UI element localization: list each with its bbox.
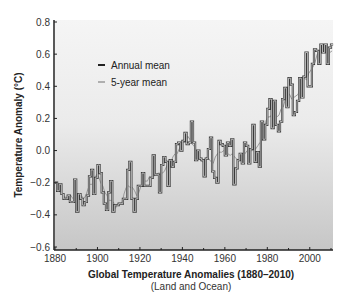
y-tick-label: 0.4: [36, 81, 50, 92]
x-tick-label: 2000: [299, 253, 322, 264]
x-tick-label: 1900: [86, 253, 109, 264]
chart-title: Global Temperature Anomalies (1880–2010): [88, 269, 294, 280]
x-tick-label: 1960: [214, 253, 237, 264]
y-tick-label: 0.6: [36, 49, 50, 60]
y-tick-label: −0.4: [30, 209, 50, 220]
y-tick-label: −0.6: [30, 242, 50, 253]
x-tick-label: 1880: [44, 253, 67, 264]
y-tick-label: 0.0: [36, 145, 50, 156]
y-tick-label: 0.8: [36, 17, 50, 28]
x-tick-label: 1920: [129, 253, 152, 264]
temperature-chart: −0.6−0.4−0.20.00.20.40.60.81880190019201…: [0, 0, 349, 303]
y-tick-label: −0.2: [30, 177, 50, 188]
chart-subtitle: (Land and Ocean): [151, 281, 232, 292]
legend-annual-label: Annual mean: [111, 60, 170, 71]
y-tick-label: 0.2: [36, 113, 50, 124]
x-tick-label: 1940: [171, 253, 194, 264]
legend-5yr-label: 5-year mean: [111, 77, 167, 88]
y-axis-title: Temperature Anomaly (°C): [13, 72, 24, 197]
x-tick-label: 1980: [256, 253, 279, 264]
